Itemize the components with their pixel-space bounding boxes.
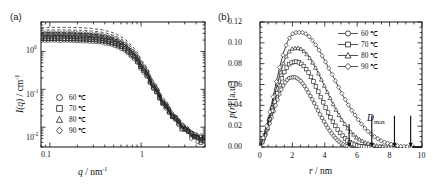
- panel-b-xtick-2: 4: [323, 151, 327, 160]
- panel-b-ytick-0: 0.00: [228, 142, 242, 151]
- square-marker-icon: [53, 104, 66, 113]
- panel-b-legend: 60 ℃ 70 ℃ 80 ℃ 90 ℃: [338, 28, 378, 72]
- panel-b-legend-label-80c: 80 ℃: [358, 51, 378, 60]
- panel-b-legend-item-80c: 80 ℃: [338, 50, 378, 61]
- panel-b-ytick-4: 0.08: [228, 59, 242, 68]
- panel-b-xtick-3: 6: [355, 151, 359, 160]
- panel-a: (a) I(q) / cm-1 q / nm-1 100 10-1 10-2 0…: [0, 0, 216, 187]
- panel-a-legend: 60 ℃ 70 ℃ 80 ℃ 90 ℃: [53, 92, 86, 136]
- panel-b-xtick-4: 8: [387, 151, 391, 160]
- panel-b-ytick-1: 0.02: [228, 121, 242, 130]
- panel-a-legend-item-70c: 70 ℃: [53, 103, 86, 114]
- panel-b-xtick-0: 0: [258, 151, 262, 160]
- line-triangle-marker-icon: [338, 51, 358, 60]
- figure-root: (a) I(q) / cm-1 q / nm-1 100 10-1 10-2 0…: [0, 0, 433, 187]
- panel-b-x-axis-title: r / nm: [309, 166, 332, 176]
- panel-a-legend-item-90c: 90 ℃: [53, 125, 86, 136]
- panel-b-legend-item-70c: 70 ℃: [338, 39, 378, 50]
- panel-a-legend-label-90c: 90 ℃: [66, 126, 86, 135]
- panel-b-legend-label-60c: 60 ℃: [358, 29, 378, 38]
- panel-b-x-axis-quantity: r: [309, 166, 313, 176]
- panel-a-legend-item-80c: 80 ℃: [53, 114, 86, 125]
- panel-a-ytick-1: 10-1: [26, 88, 38, 99]
- line-circle-marker-icon: [338, 29, 358, 38]
- panel-a-y-axis-unit: / cm: [15, 80, 25, 97]
- panel-b-ytick-2: 0.04: [228, 100, 242, 109]
- panel-a-x-axis-exponent: -1: [102, 166, 107, 172]
- panel-b-ytick-6: 0.12: [228, 17, 242, 26]
- dmax-arrow-2: [392, 116, 396, 148]
- panel-a-ytick-0: 100: [26, 44, 37, 55]
- panel-a-legend-item-60c: 60 ℃: [53, 92, 86, 103]
- panel-b-ytick-3: 0.06: [228, 80, 242, 89]
- dmax-annotation: Dmax: [367, 113, 385, 125]
- panel-a-x-axis-quantity: q: [78, 167, 83, 177]
- panel-b-ytick-5: 0.10: [228, 38, 242, 47]
- line-diamond-marker-icon: [338, 62, 358, 71]
- panel-a-x-axis-unit: / nm: [85, 167, 102, 177]
- panel-a-y-axis-title: I(q) / cm-1: [14, 75, 25, 113]
- panel-b-xtick-1: 2: [290, 151, 294, 160]
- panel-a-y-axis-exponent: -1: [14, 75, 20, 80]
- dmax-symbol: D: [367, 113, 374, 123]
- diamond-marker-icon: [53, 126, 66, 135]
- panel-b-xtick-5: 10: [418, 151, 426, 160]
- panel-b: (b) p(r) [a.u.] r / nm Dmax 60 ℃: [217, 0, 433, 187]
- panel-a-ytick-2: 10-2: [26, 131, 38, 142]
- panel-b-x-axis-unit: / nm: [315, 166, 332, 176]
- dmax-arrow-3: [409, 116, 413, 148]
- panel-a-label: (a): [10, 11, 22, 22]
- panel-a-legend-label-70c: 70 ℃: [66, 104, 86, 113]
- panel-b-legend-item-90c: 90 ℃: [338, 61, 378, 72]
- dmax-subscript: max: [374, 118, 385, 125]
- triangle-marker-icon: [53, 115, 66, 124]
- panel-b-legend-label-90c: 90 ℃: [358, 62, 378, 71]
- panel-a-xtick-0: 0.1: [41, 150, 51, 159]
- line-square-marker-icon: [338, 40, 358, 49]
- panel-a-legend-label-60c: 60 ℃: [66, 93, 86, 102]
- panel-a-x-axis-title: q / nm-1: [78, 166, 107, 177]
- panel-a-y-axis-quantity: I(q): [15, 99, 25, 113]
- panel-a-xtick-1: 1: [140, 150, 144, 159]
- panel-a-legend-label-80c: 80 ℃: [66, 115, 86, 124]
- circle-marker-icon: [53, 93, 66, 102]
- panel-b-legend-item-60c: 60 ℃: [338, 28, 378, 39]
- panel-b-legend-label-70c: 70 ℃: [358, 40, 378, 49]
